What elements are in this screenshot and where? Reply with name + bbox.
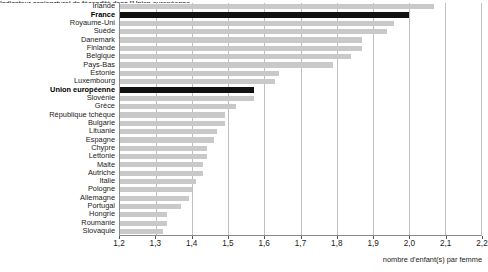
bar-row	[120, 219, 481, 228]
bar-royaume-uni	[120, 21, 394, 26]
x-tick-label-1-7: 1,7	[295, 239, 306, 248]
bar-rows	[120, 3, 481, 235]
bar-row	[120, 11, 481, 20]
bar-row	[120, 28, 481, 37]
bar-italie	[120, 179, 196, 184]
bar-belgique	[120, 54, 351, 59]
bar-row	[120, 3, 481, 12]
bar-slov-nie	[120, 96, 254, 101]
bar-row	[120, 53, 481, 62]
bar-row	[120, 78, 481, 87]
bar-row	[120, 161, 481, 170]
bar-gr-ce	[120, 104, 236, 109]
category-label-slovaquie: Slovaquie	[0, 227, 115, 236]
bar-row	[120, 111, 481, 120]
category-label-autriche: Autriche	[0, 169, 115, 178]
bar-hongrie	[120, 212, 167, 217]
bar-row	[120, 228, 481, 237]
x-tick-label-2-2: 2,2	[476, 239, 487, 248]
bar-slovaquie	[120, 229, 163, 234]
plot-area	[119, 3, 482, 236]
bar-allemagne	[120, 196, 189, 201]
bar-malte	[120, 162, 203, 167]
bar-row	[120, 211, 481, 220]
bar-su-de	[120, 29, 387, 34]
bar-danemark	[120, 37, 362, 42]
bar-row	[120, 36, 481, 45]
bar-espagne	[120, 137, 214, 142]
bar-row	[120, 86, 481, 95]
bar-row	[120, 178, 481, 187]
category-labels: IrlandeFranceRoyaume-UniSuèdeDanemarkFin…	[0, 3, 117, 236]
bar-france	[120, 12, 409, 18]
bar-r-publique-tch-que	[120, 112, 225, 117]
bar-row	[120, 203, 481, 212]
x-axis: 1,21,31,41,51,61,71,81,92,02,12,2	[119, 236, 482, 252]
bar-row	[120, 153, 481, 162]
bar-finlande	[120, 46, 362, 51]
bar-roumanie	[120, 221, 167, 226]
x-tick-label-1-3: 1,3	[150, 239, 161, 248]
bar-row	[120, 70, 481, 79]
x-tick-label-1-2: 1,2	[113, 239, 124, 248]
bar-row	[120, 169, 481, 178]
bar-row	[120, 103, 481, 112]
bar-row	[120, 61, 481, 70]
bar-portugal	[120, 204, 181, 209]
bar-bulgarie	[120, 121, 225, 126]
bar-luxembourg	[120, 79, 275, 84]
bar-row	[120, 144, 481, 153]
x-tick-label-1-8: 1,8	[331, 239, 342, 248]
x-tick-label-2-0: 2,0	[404, 239, 415, 248]
x-tick-label-1-9: 1,9	[367, 239, 378, 248]
x-tick-label-1-4: 1,4	[186, 239, 197, 248]
gridline-2-2	[481, 3, 482, 235]
bar-row	[120, 20, 481, 29]
bar-estonie	[120, 71, 279, 76]
x-tick-label-1-5: 1,5	[222, 239, 233, 248]
bar-row	[120, 120, 481, 129]
bar-pays-bas	[120, 62, 333, 67]
x-tick-label-2-1: 2,1	[440, 239, 451, 248]
x-axis-caption: nombre d'enfant(s) par femme	[383, 255, 482, 264]
bar-row	[120, 128, 481, 137]
bar-row	[120, 45, 481, 54]
bar-chypre	[120, 146, 207, 151]
bar-union-europ-enne	[120, 87, 254, 93]
bar-irlande	[120, 4, 434, 9]
bar-row	[120, 186, 481, 195]
bar-lettonie	[120, 154, 207, 159]
x-tick-label-1-6: 1,6	[258, 239, 269, 248]
bar-lituanie	[120, 129, 217, 134]
bar-row	[120, 136, 481, 145]
bar-pologne	[120, 187, 192, 192]
bar-autriche	[120, 171, 203, 176]
bar-row	[120, 194, 481, 203]
bar-row	[120, 95, 481, 104]
